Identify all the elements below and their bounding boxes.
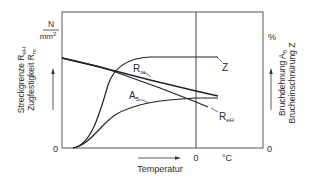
label-reh: ReH — [219, 111, 234, 123]
x-axis-title: Temperatur — [137, 164, 183, 174]
left-unit-numerator: N — [48, 19, 54, 29]
x-arrow-head-icon — [175, 156, 181, 160]
left-arrow-head-icon — [51, 68, 55, 74]
right-axis-line2: Brucheinschnürung Z — [287, 43, 297, 124]
right-axis-line1: Bruchdehnung A5 — [277, 49, 288, 116]
diagram: Rm A5 Z ReH N mm2 0 Streckgrenze ReH Zug… — [0, 0, 315, 183]
label-a5: A5 — [129, 90, 140, 102]
label-rm: Rm — [133, 63, 145, 75]
left-unit-denominator: mm2 — [40, 31, 57, 41]
left-axis-zero: 0 — [53, 144, 58, 154]
x-axis-unit: °C — [222, 153, 233, 163]
right-axis-title: Bruchdehnung A5 Brucheinschnürung Z — [277, 43, 297, 124]
left-axis-title: Streckgrenze ReH Zugfestigkeit Rm — [16, 47, 37, 113]
x-axis-zero: 0 — [193, 153, 198, 163]
right-unit: % — [268, 32, 276, 42]
leader-a5 — [139, 100, 148, 103]
right-axis-zero: 0 — [267, 144, 272, 154]
leader-reh — [211, 108, 218, 112]
plot-frame — [62, 12, 263, 148]
right-arrow-head-icon — [269, 68, 273, 74]
left-axis-line2: Zugfestigkeit Rm — [26, 49, 37, 111]
left-axis-line1: Streckgrenze ReH — [16, 47, 27, 113]
label-z: Z — [222, 62, 228, 73]
